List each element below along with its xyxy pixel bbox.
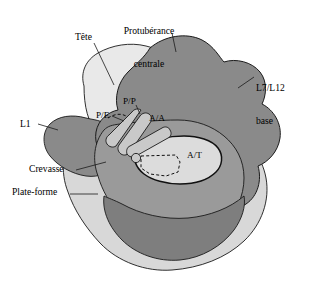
label-crevasse: Crevasse: [29, 164, 64, 175]
label-l7-l12-base-line2: base: [256, 116, 285, 127]
label-l1: L1: [20, 119, 31, 130]
label-plate-forme: Plate-forme: [12, 187, 57, 198]
label-protuberance-centrale-line2: centrale: [110, 59, 188, 70]
label-protuberance-centrale: Protubérance centrale: [110, 5, 188, 91]
label-p-e-site: P/E: [96, 110, 109, 120]
label-p-p-site: P/P: [123, 96, 136, 106]
label-protuberance-centrale-line1: Protubérance: [110, 26, 188, 37]
label-a-a-site: A/A: [149, 113, 165, 123]
label-a-t-site: A/T: [187, 150, 202, 160]
label-l7-l12-base-line1: L7/L12: [256, 83, 285, 94]
diagram-figure: Protubérance centrale Tête L7/L12 base L…: [0, 0, 318, 283]
helix-rod-endcap: [131, 153, 140, 162]
label-tete: Tête: [75, 32, 92, 43]
label-l7-l12-base: L7/L12 base: [256, 62, 285, 148]
